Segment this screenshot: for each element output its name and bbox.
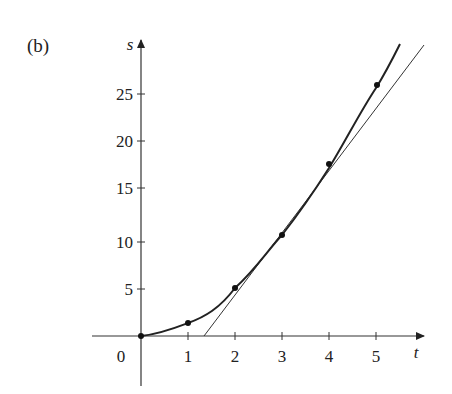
data-point <box>232 285 238 291</box>
data-point <box>138 333 144 339</box>
data-point <box>185 320 191 326</box>
y-tick-label: 10 <box>116 233 133 252</box>
x-tick-label: 2 <box>231 347 240 366</box>
x-tick-label: 5 <box>372 347 381 366</box>
data-point <box>279 232 285 238</box>
y-tick-label: 25 <box>116 85 133 104</box>
data-points <box>138 82 380 339</box>
y-tick-label: 20 <box>116 132 133 151</box>
y-tick-label: 5 <box>125 280 134 299</box>
x-axis-label: t <box>414 343 420 362</box>
y-tick-label: 15 <box>116 179 133 198</box>
panel-label: (b) <box>27 35 49 57</box>
data-point <box>326 161 332 167</box>
data-curve <box>141 44 400 336</box>
chart: 1 2 3 4 5 0 5 10 15 20 25 s t (b) <box>0 0 452 394</box>
y-axis-label: s <box>127 35 134 54</box>
x-tick-label: 4 <box>325 347 334 366</box>
data-point <box>374 82 380 88</box>
origin-label: 0 <box>117 347 126 366</box>
x-tick-label: 3 <box>278 347 287 366</box>
x-tick-label: 1 <box>184 347 193 366</box>
